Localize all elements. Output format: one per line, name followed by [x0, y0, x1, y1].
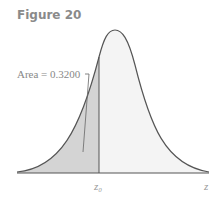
- z-axis-label: z: [204, 180, 208, 192]
- unshaded-region: [99, 30, 209, 173]
- normal-curve-diagram: [0, 0, 222, 200]
- z0-label: z₀: [94, 180, 102, 192]
